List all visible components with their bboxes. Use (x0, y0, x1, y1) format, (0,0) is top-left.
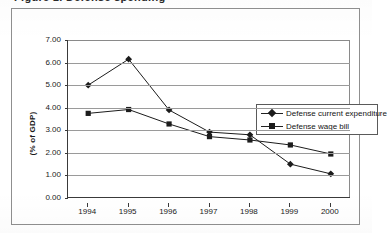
y-axis-tick-mark (65, 108, 68, 109)
clipped-figure-title-text: Figure 1. Defense spending (14, 0, 165, 3)
x-axis-tick-label: 1994 (72, 208, 102, 216)
x-axis-tick-label: 1997 (194, 208, 224, 216)
data-point-square (166, 121, 171, 126)
legend-label-series-0: Defense current expenditure (286, 109, 387, 118)
gridline (68, 175, 350, 176)
x-axis-tick-labels: 1994199519961997199819992000 (67, 203, 350, 215)
gridline (68, 85, 350, 86)
y-axis-tick-mark (65, 63, 68, 64)
gridline (68, 63, 350, 64)
data-point-diamond (247, 131, 254, 138)
x-axis-tick-label: 1996 (153, 208, 183, 216)
y-axis-title-text: (% of GDP) (29, 111, 38, 155)
diamond-marker-icon (261, 109, 283, 118)
x-axis-tick-label: 1998 (234, 208, 264, 216)
x-axis-tick-label: 1995 (113, 208, 143, 216)
gridline (68, 130, 350, 131)
y-axis-title: (% of GDP) (26, 96, 40, 170)
y-axis-tick-mark (65, 198, 68, 199)
data-point-diamond (287, 161, 294, 168)
y-axis-tick-mark (65, 175, 68, 176)
legend-item-defense-current-expenditure: Defense current expenditure (261, 107, 387, 120)
plot-area: Defense current expenditure Defense wage… (67, 40, 350, 198)
y-axis-tick-mark (65, 153, 68, 154)
y-axis-tick-mark (65, 130, 68, 131)
clipped-figure-title: Figure 1. Defense spending (0, 0, 372, 7)
y-axis-tick-mark (65, 85, 68, 86)
x-axis-tick-label: 1999 (274, 208, 304, 216)
data-point-square (207, 134, 212, 139)
data-point-square (288, 142, 293, 147)
y-axis-tick-mark (65, 40, 68, 41)
data-point-square (86, 111, 91, 116)
gridline (68, 153, 350, 154)
data-point-square (247, 137, 252, 142)
gridline (68, 108, 350, 109)
x-axis-tick-label: 2000 (315, 208, 345, 216)
